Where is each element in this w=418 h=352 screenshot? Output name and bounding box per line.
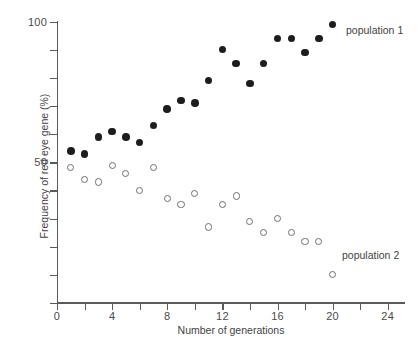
x-axis-line: [57, 302, 405, 303]
x-tick-4: [112, 303, 113, 310]
data-point: [122, 133, 130, 141]
data-point: [246, 80, 254, 88]
data-point: [232, 60, 240, 68]
y-tick-30: [50, 219, 57, 220]
data-point: [191, 99, 199, 107]
data-point: [233, 192, 240, 199]
data-point: [163, 105, 171, 113]
x-tick-6: [140, 303, 141, 310]
x-tick-22: [360, 303, 361, 310]
x-tick-20: [333, 303, 334, 310]
x-tick-label-0: 0: [54, 310, 60, 322]
data-point: [81, 176, 88, 183]
data-point: [260, 229, 267, 236]
y-axis-line: [57, 21, 58, 303]
y-tick-80: [50, 78, 57, 79]
x-tick-10: [195, 303, 196, 310]
data-point: [108, 128, 116, 136]
x-tick-14: [250, 303, 251, 310]
y-tick-10: [50, 275, 57, 276]
x-tick-label-20: 20: [326, 310, 339, 322]
data-point: [301, 238, 308, 245]
x-tick-16: [278, 303, 279, 310]
x-tick-18: [305, 303, 306, 310]
data-point: [177, 97, 185, 105]
x-tick-8: [167, 303, 168, 310]
data-point: [301, 49, 309, 57]
data-point: [205, 223, 212, 230]
data-point: [67, 147, 75, 155]
data-point: [315, 35, 323, 43]
x-tick-label-4: 4: [109, 310, 115, 322]
x-tick-label-16: 16: [271, 310, 284, 322]
data-point: [177, 201, 184, 208]
data-point: [122, 170, 129, 177]
data-point: [81, 150, 89, 158]
data-point: [260, 60, 268, 68]
x-tick-label-24: 24: [381, 310, 394, 322]
scatter-chart: 50100 04812162024 Frequency of red eye g…: [0, 0, 418, 352]
y-tick-70: [50, 106, 57, 107]
data-point: [150, 122, 158, 130]
data-point: [136, 139, 144, 147]
x-tick-12: [222, 303, 223, 310]
data-point: [288, 35, 296, 43]
x-tick-label-12: 12: [216, 310, 229, 322]
y-tick-40: [50, 190, 57, 191]
x-tick-0: [57, 303, 58, 310]
data-point: [150, 164, 157, 171]
data-point: [274, 35, 282, 43]
data-point: [315, 238, 322, 245]
data-point: [219, 201, 226, 208]
data-point: [329, 271, 336, 278]
data-point: [67, 164, 74, 171]
series-label-population-2: population 2: [342, 249, 399, 261]
data-point: [246, 218, 253, 225]
y-tick-90: [50, 50, 57, 51]
data-point: [95, 133, 103, 141]
y-tick-0: [50, 303, 57, 304]
y-axis-title: Frequency of red eye gene (%): [38, 76, 50, 256]
data-point: [329, 21, 337, 29]
data-point: [288, 229, 295, 236]
y-tick-20: [50, 247, 57, 248]
data-point: [205, 77, 213, 85]
y-tick-50: [50, 162, 57, 163]
x-tick-24: [388, 303, 389, 310]
data-point: [136, 187, 143, 194]
x-axis-title: Number of generations: [57, 324, 405, 336]
data-point: [191, 190, 198, 197]
x-tick-2: [85, 303, 86, 310]
data-point: [95, 178, 102, 185]
data-point: [274, 215, 281, 222]
series-label-population-1: population 1: [346, 24, 403, 36]
x-tick-label-8: 8: [164, 310, 170, 322]
y-tick-60: [50, 134, 57, 135]
data-point: [164, 195, 171, 202]
y-tick-label-100: 100: [28, 16, 47, 28]
data-point: [109, 162, 116, 169]
y-tick-100: [50, 22, 57, 23]
data-point: [219, 46, 227, 54]
